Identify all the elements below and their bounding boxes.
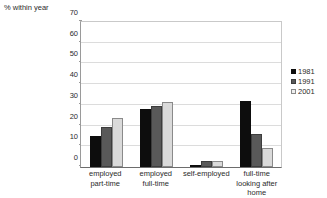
legend-swatch-icon <box>291 89 296 94</box>
legend-item-1981[interactable]: 1981 <box>291 66 325 76</box>
x-axis-label-line: part-time <box>80 179 131 189</box>
y-axis-title: % within year <box>4 3 49 12</box>
bar-2001-2 <box>212 161 223 167</box>
legend: 198119912001 <box>291 66 325 96</box>
y-tick-label: 40 <box>56 71 78 79</box>
x-axis-label: full-timelooking afterhome <box>232 169 283 198</box>
bar-1991-0 <box>101 127 112 167</box>
x-axis-label-line: employed <box>80 169 131 179</box>
y-tick-label: 70 <box>56 9 78 17</box>
bar-1991-2 <box>201 161 212 167</box>
x-axis-label-line: full-time <box>131 179 182 189</box>
bar-1991-3 <box>251 134 262 167</box>
bar-group <box>181 22 231 167</box>
legend-swatch-icon <box>291 69 296 74</box>
bar-2001-0 <box>112 118 123 167</box>
legend-label: 1991 <box>298 77 315 86</box>
plot-area <box>80 21 282 168</box>
legend-item-1991[interactable]: 1991 <box>291 76 325 86</box>
y-tick-label: 10 <box>56 133 78 141</box>
y-tick-label: 20 <box>56 113 78 121</box>
bar-1981-0 <box>90 136 101 167</box>
legend-label: 2001 <box>298 87 315 96</box>
caption-fragment: Table 4.1 <box>2 197 34 198</box>
bar-chart: % within year 010203040506070 employedpa… <box>0 0 327 198</box>
x-axis-label-line: self-employed <box>181 169 232 179</box>
legend-label: 1981 <box>298 67 315 76</box>
x-axis-labels: employedpart-timeemployedfull-timeself-e… <box>80 169 282 198</box>
x-axis-label-line: full-time <box>232 169 283 179</box>
bar-group <box>81 22 131 167</box>
y-tick-label: 60 <box>56 30 78 38</box>
y-tick-label: 50 <box>56 50 78 58</box>
bar-1981-1 <box>140 109 151 167</box>
x-axis-label: employedpart-time <box>80 169 131 198</box>
x-axis-label-line: employed <box>131 169 182 179</box>
bar-group <box>131 22 181 167</box>
bar-2001-3 <box>262 148 273 167</box>
legend-swatch-icon <box>291 79 296 84</box>
x-axis-label: employedfull-time <box>131 169 182 198</box>
bar-1991-1 <box>151 106 162 167</box>
legend-item-2001[interactable]: 2001 <box>291 86 325 96</box>
bar-groups <box>81 22 281 167</box>
x-axis-label-line: home <box>232 188 283 198</box>
y-tick-label: 0 <box>56 154 78 162</box>
bar-1981-3 <box>240 101 251 167</box>
x-axis-label-line: looking after <box>232 179 283 189</box>
y-axis-ticks: 010203040506070 <box>56 21 78 166</box>
bar-group <box>231 22 281 167</box>
bar-2001-1 <box>162 102 173 167</box>
x-axis-label: self-employed <box>181 169 232 198</box>
bar-1981-2 <box>190 165 201 167</box>
y-tick-label: 30 <box>56 92 78 100</box>
